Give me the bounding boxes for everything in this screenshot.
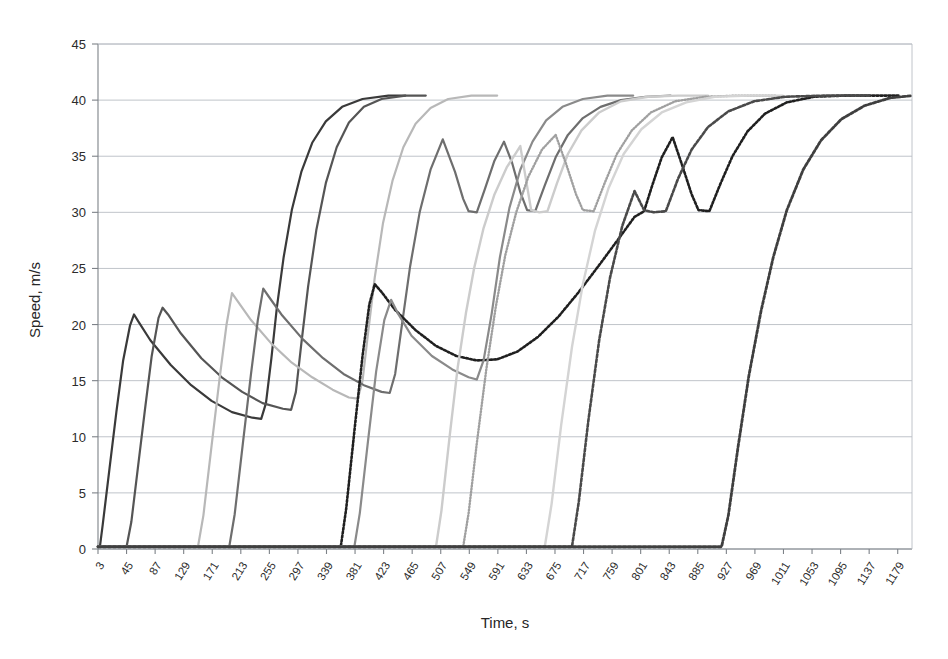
y-tick-label: 5 bbox=[79, 486, 86, 501]
speed-vs-time-chart: 051015202530354045 345871291712132552973… bbox=[0, 0, 948, 659]
y-tick-label: 20 bbox=[72, 318, 86, 333]
y-tick-label: 45 bbox=[72, 37, 86, 52]
chart-canvas: 051015202530354045 345871291712132552973… bbox=[0, 0, 948, 659]
y-tick-label: 40 bbox=[72, 93, 86, 108]
y-tick-label: 0 bbox=[79, 542, 86, 557]
x-axis-title: Time, s bbox=[481, 614, 530, 631]
y-axis-title: Speed, m/s bbox=[26, 262, 43, 338]
y-tick-label: 35 bbox=[72, 149, 86, 164]
y-tick-label: 30 bbox=[72, 205, 86, 220]
y-tick-label: 25 bbox=[72, 261, 86, 276]
y-tick-label: 15 bbox=[72, 374, 86, 389]
y-tick-label: 10 bbox=[72, 430, 86, 445]
